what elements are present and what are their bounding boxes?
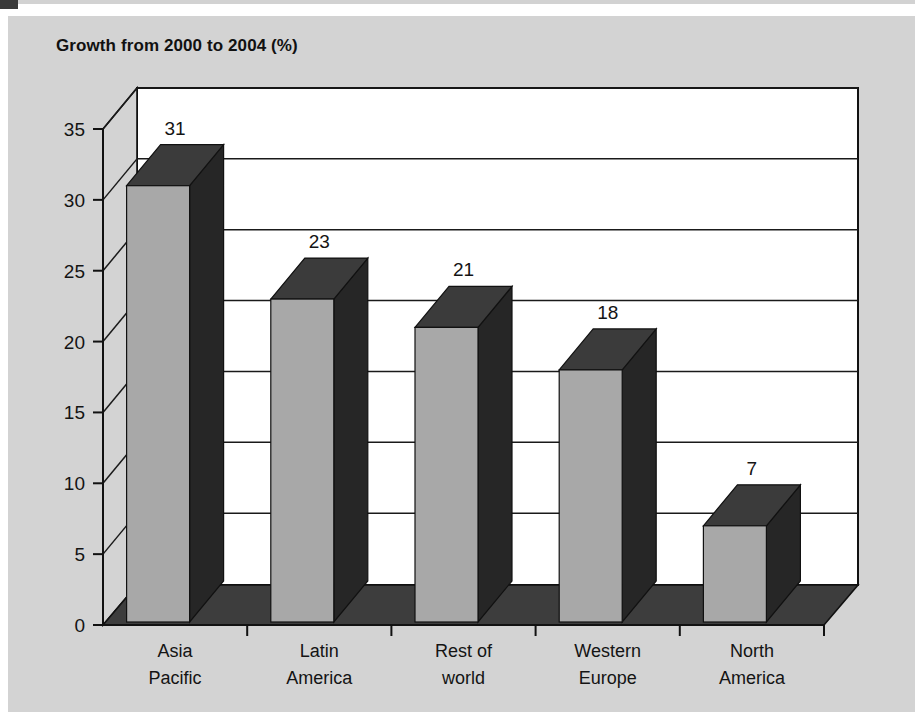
y-tick-label: 15 xyxy=(64,402,85,423)
bar-value-label: 31 xyxy=(165,118,186,139)
category-label: NorthAmerica xyxy=(719,641,786,688)
chart-plot-area: 05101520253035 312321187 AsiaPacificLati… xyxy=(0,0,915,727)
y-tick-label: 0 xyxy=(74,615,85,636)
category-label-line: world xyxy=(441,668,485,688)
bar-3d xyxy=(271,258,368,622)
y-tick-label: 5 xyxy=(74,544,85,565)
bar-side-face xyxy=(334,258,368,622)
bar-value-label: 18 xyxy=(597,302,618,323)
y-tick-label: 10 xyxy=(64,473,85,494)
category-label-line: Latin xyxy=(300,641,339,661)
category-label-line: America xyxy=(286,668,353,688)
bar-front-face xyxy=(127,186,190,622)
y-tick-label: 20 xyxy=(64,332,85,353)
bar-side-face xyxy=(478,286,512,622)
category-label-line: Europe xyxy=(579,668,637,688)
category-label: LatinAmerica xyxy=(286,641,353,688)
category-labels: AsiaPacificLatinAmericaRest ofworldWeste… xyxy=(149,641,786,688)
category-label-line: Asia xyxy=(158,641,194,661)
bar-front-face xyxy=(559,370,622,622)
category-label-line: Pacific xyxy=(149,668,202,688)
bar-side-face xyxy=(190,145,224,622)
bar-value-label: 21 xyxy=(453,259,474,280)
bar-3d xyxy=(127,145,224,622)
bar-side-face xyxy=(622,329,656,622)
y-tick-label: 25 xyxy=(64,261,85,282)
chart-figure: Growth from 2000 to 2004 (%) 05101520253… xyxy=(0,0,915,727)
category-label-line: Western xyxy=(574,641,641,661)
category-label: WesternEurope xyxy=(574,641,641,688)
bar-3d xyxy=(559,329,656,622)
category-label-line: America xyxy=(719,668,786,688)
y-tick-group: 05101520253035 xyxy=(64,119,103,636)
category-label-line: North xyxy=(730,641,774,661)
bar-front-face xyxy=(415,327,478,622)
x-tick-group xyxy=(247,625,824,636)
bar-value-label: 23 xyxy=(309,231,330,252)
y-tick-label: 35 xyxy=(64,119,85,140)
category-label-line: Rest of xyxy=(435,641,493,661)
category-label: AsiaPacific xyxy=(149,641,202,688)
bar-3d xyxy=(415,286,512,622)
bar-front-face xyxy=(703,526,766,622)
bar-value-label: 7 xyxy=(747,458,758,479)
y-tick-label: 30 xyxy=(64,190,85,211)
bar-front-face xyxy=(271,299,334,622)
category-label: Rest ofworld xyxy=(435,641,493,688)
